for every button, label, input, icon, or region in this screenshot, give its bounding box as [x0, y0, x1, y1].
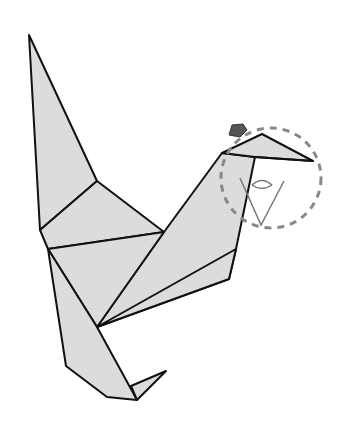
origami-bird-illustration	[0, 0, 344, 430]
origami-diagram: Origami bird folding step	[0, 0, 344, 430]
foot	[131, 371, 166, 400]
pentagon-marker-icon	[229, 124, 247, 137]
